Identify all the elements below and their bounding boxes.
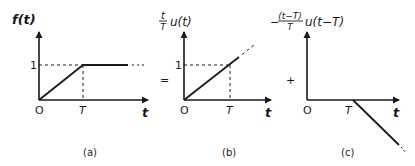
plus-operator: + (286, 74, 295, 87)
ramp-decomposition-diagram: f(t) 1 O T t (a) = t T u(t) 1 O T t (b) … (0, 0, 415, 166)
tick-T: T (226, 104, 234, 117)
y-axis-label: f(t) (12, 12, 36, 27)
y-label-denominator: T (160, 22, 167, 32)
origin-label: O (303, 104, 312, 117)
x-axis-label: t (265, 105, 272, 120)
continuation-dash (242, 44, 256, 55)
caption: (b) (222, 147, 236, 158)
tick-T: T (79, 104, 87, 117)
caption: (c) (341, 147, 354, 158)
ramp-line (184, 57, 239, 100)
y-label-rest: u(t) (170, 15, 192, 29)
x-axis-label: t (142, 105, 149, 120)
ramp-curve (39, 65, 128, 100)
origin-label: O (180, 104, 189, 117)
tick-1: 1 (30, 59, 37, 72)
x-axis-label: t (393, 105, 400, 120)
y-label-denominator: T (287, 22, 294, 32)
panel-a: f(t) 1 O T t (a) (12, 12, 149, 158)
y-label-numerator: t (161, 10, 166, 21)
caption: (a) (83, 147, 97, 158)
y-label-numerator: (t−T) (278, 11, 302, 21)
origin-label: O (35, 104, 44, 117)
panel-b: t T u(t) 1 O T t (b) (159, 10, 272, 158)
continuation-dash (401, 147, 406, 153)
tick-1: 1 (175, 59, 182, 72)
equals-operator: = (160, 74, 169, 87)
tick-T: T (345, 104, 353, 117)
y-label-rest: u(t−T) (305, 15, 344, 29)
